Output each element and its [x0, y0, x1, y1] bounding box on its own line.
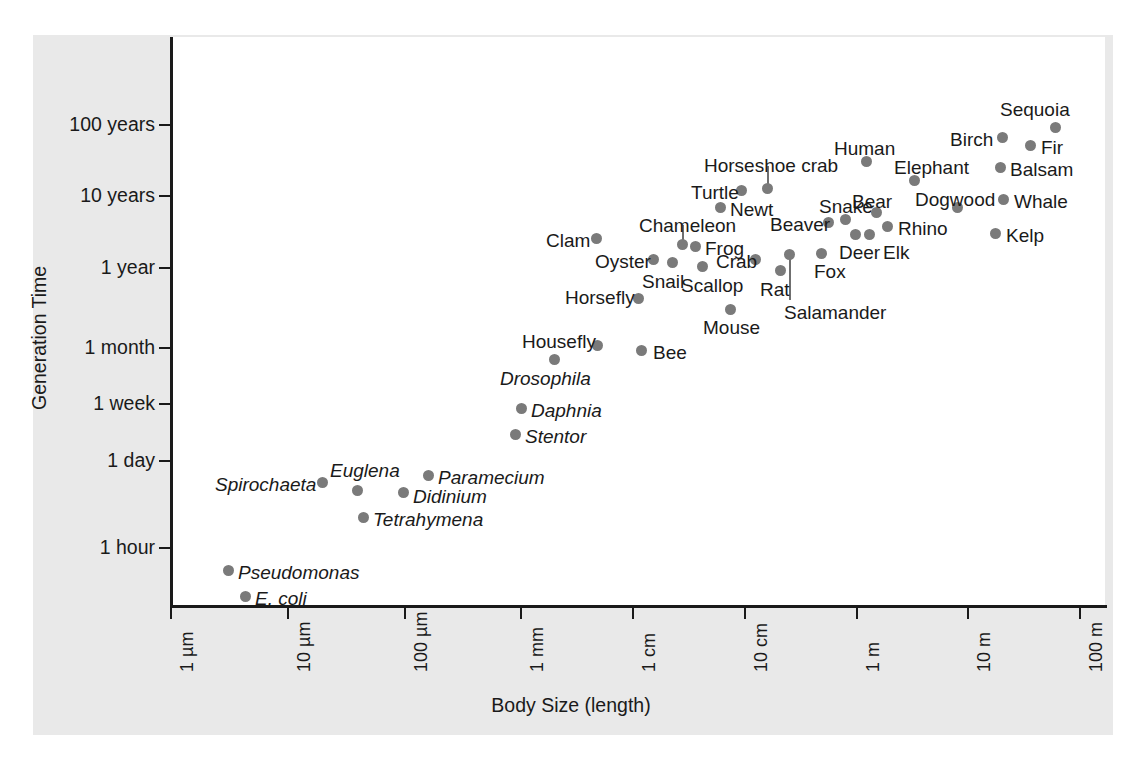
scatter-point-label: Didinium [413, 487, 487, 506]
scatter-point[interactable] [352, 485, 363, 496]
y-axis-title: Generation Time [30, 266, 50, 410]
scatter-point[interactable] [690, 241, 701, 252]
scatter-point-label: Sequoia [1000, 100, 1070, 119]
scatter-point[interactable] [725, 304, 736, 315]
scatter-point-label: Elk [883, 243, 909, 262]
scatter-point[interactable] [591, 233, 602, 244]
scatter-point-label: E. coli [255, 589, 307, 608]
scatter-point-label: Daphnia [531, 401, 602, 420]
x-axis-tick [287, 608, 289, 619]
scatter-point-label: Whale [1014, 192, 1068, 211]
y-axis-tick [159, 547, 170, 549]
x-axis-tick [632, 608, 634, 619]
scatter-point-label: Dogwood [915, 190, 995, 209]
y-axis-tick-label: 10 years [80, 186, 155, 206]
scatter-point-label: Pseudomonas [238, 563, 359, 582]
y-axis-tick-label: 1 year [101, 258, 155, 278]
scatter-point-label: Salamander [784, 303, 886, 322]
scatter-point[interactable] [697, 261, 708, 272]
scatter-point[interactable] [850, 229, 861, 240]
scatter-point[interactable] [549, 354, 560, 365]
scatter-point-label: Drosophila [500, 369, 591, 388]
scatter-point-label: Scallop [681, 276, 743, 295]
scatter-point[interactable] [882, 221, 893, 232]
scatter-point-label: Balsam [1010, 160, 1073, 179]
scatter-point[interactable] [510, 429, 521, 440]
scatter-point-label: Oyster [595, 252, 651, 271]
scatter-point[interactable] [1025, 140, 1036, 151]
scatter-point-label: Crab [716, 252, 757, 271]
y-axis-tick-label: 1 hour [100, 538, 155, 558]
scatter-point[interactable] [423, 470, 434, 481]
scatter-point-label: Mouse [703, 318, 760, 337]
x-axis-tick-label: 10 cm [752, 623, 770, 672]
x-axis-tick [744, 608, 746, 619]
scatter-point[interactable] [358, 512, 369, 523]
y-axis-tick-label: 1 day [107, 451, 155, 471]
scatter-point[interactable] [775, 265, 786, 276]
y-axis-tick [159, 347, 170, 349]
scatter-point-label: Clam [546, 231, 590, 250]
scatter-point[interactable] [317, 477, 328, 488]
x-axis-tick-label: 1 µm [178, 632, 196, 672]
scatter-point-label: Euglena [330, 461, 400, 480]
y-axis-tick [159, 460, 170, 462]
scatter-point[interactable] [990, 228, 1001, 239]
x-axis-tick-label: 1 cm [640, 633, 658, 672]
x-axis-tick [1079, 608, 1081, 619]
scatter-point[interactable] [667, 257, 678, 268]
y-axis-tick [159, 195, 170, 197]
scatter-point-label: Elephant [894, 158, 969, 177]
scatter-point[interactable] [223, 565, 234, 576]
x-axis-tick-label: 10 µm [295, 622, 313, 672]
scatter-point[interactable] [816, 248, 827, 259]
scatter-point[interactable] [995, 162, 1006, 173]
x-axis-title: Body Size (length) [0, 694, 1142, 717]
scatter-point-label: Horsefly [565, 288, 635, 307]
scatter-point[interactable] [516, 403, 527, 414]
scatter-point[interactable] [398, 487, 409, 498]
scatter-point-label: Bear [852, 192, 892, 211]
y-axis-line [170, 37, 173, 608]
scatter-point-label: Tetrahymena [373, 510, 483, 529]
scatter-point[interactable] [998, 194, 1009, 205]
figure-container: 100 years10 years1 year1 month1 week1 da… [0, 0, 1142, 769]
scatter-point[interactable] [997, 132, 1008, 143]
y-axis-tick [159, 124, 170, 126]
x-axis-tick-label: 100 µm [412, 612, 430, 672]
scatter-point[interactable] [784, 249, 795, 260]
scatter-point[interactable] [762, 183, 773, 194]
y-axis-tick-label: 1 month [85, 338, 155, 358]
scatter-point[interactable] [240, 591, 251, 602]
x-axis-tick [520, 608, 522, 619]
x-axis-tick [170, 608, 172, 619]
scatter-point[interactable] [864, 229, 875, 240]
scatter-point-label: Birch [950, 130, 993, 149]
scatter-point-label: Fir [1041, 138, 1063, 157]
x-axis-tick-label: 100 m [1087, 622, 1105, 672]
scatter-point-label: Spirochaeta [215, 475, 316, 494]
scatter-point-label: Rat [760, 280, 790, 299]
scatter-point[interactable] [677, 239, 688, 250]
x-axis-tick [856, 608, 858, 619]
x-axis-tick [404, 608, 406, 619]
x-axis-tick [967, 608, 969, 619]
y-axis-tick [159, 267, 170, 269]
y-axis-tick-label: 1 week [93, 394, 155, 414]
scatter-point-label: Bee [653, 343, 687, 362]
scatter-point-label: Human [834, 139, 895, 158]
x-axis-tick-label: 1 mm [528, 627, 546, 672]
scatter-point-label: Deer [839, 243, 880, 262]
scatter-point-label: Horseshoe crab [704, 156, 838, 175]
y-axis-tick [159, 403, 170, 405]
scatter-point-label: Stentor [525, 427, 586, 446]
scatter-point-label: Snail [642, 272, 684, 291]
scatter-point-label: Beaver [770, 215, 830, 234]
plot-area [172, 37, 1105, 605]
y-axis-tick-label: 100 years [69, 115, 155, 135]
scatter-point[interactable] [636, 345, 647, 356]
scatter-point[interactable] [715, 202, 726, 213]
scatter-point-label: Rhino [898, 219, 948, 238]
scatter-point[interactable] [1050, 122, 1061, 133]
scatter-point-label: Chameleon [639, 216, 736, 235]
